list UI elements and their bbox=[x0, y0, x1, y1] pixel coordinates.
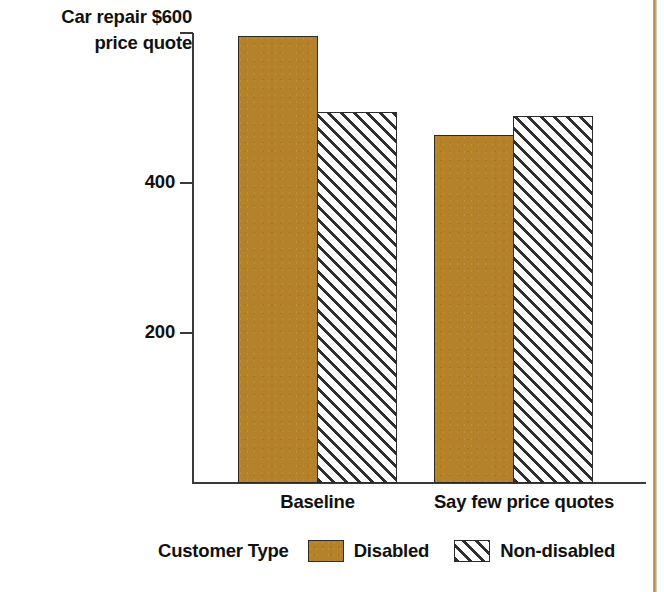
legend-item-non-disabled: Non-disabled bbox=[454, 540, 615, 562]
bar-baseline-non-disabled bbox=[317, 112, 397, 483]
bar-say-few-price-quotes-disabled bbox=[434, 135, 514, 483]
legend-title: Customer Type bbox=[158, 540, 289, 562]
y-tick-mark-400 bbox=[180, 182, 193, 184]
page-scan-edge bbox=[653, 0, 657, 592]
y-axis-line bbox=[192, 33, 194, 484]
y-axis-title: Car repair $600 price quote bbox=[22, 4, 192, 56]
x-axis-category-label-say-few-price-quotes: Say few price quotes bbox=[414, 491, 634, 513]
y-tick-label-400: 400 bbox=[75, 173, 175, 192]
legend-item-disabled: Disabled bbox=[308, 540, 430, 562]
bar-say-few-price-quotes-non-disabled bbox=[513, 116, 593, 483]
legend: Customer Type Disabled Non-disabled bbox=[158, 540, 615, 562]
y-tick-label-200: 200 bbox=[75, 323, 175, 342]
x-axis-category-label-baseline: Baseline bbox=[238, 491, 397, 513]
legend-label-disabled: Disabled bbox=[354, 540, 430, 562]
y-tick-mark-600 bbox=[180, 32, 193, 34]
bar-chart-figure: Car repair $600 price quote 400 200 Base… bbox=[0, 0, 664, 592]
y-tick-mark-200 bbox=[180, 332, 193, 334]
legend-label-non-disabled: Non-disabled bbox=[500, 540, 615, 562]
legend-swatch-disabled-icon bbox=[308, 540, 344, 562]
legend-swatch-non-disabled-icon bbox=[454, 540, 490, 562]
bar-baseline-disabled bbox=[238, 36, 318, 483]
